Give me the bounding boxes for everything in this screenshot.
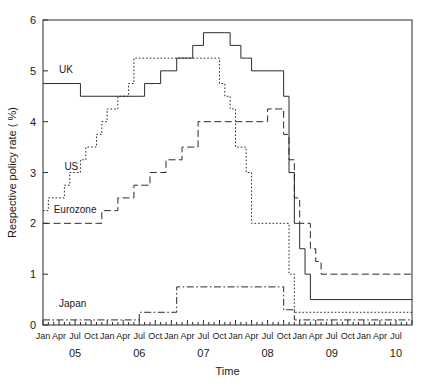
- x-tick-label-Oct: Oct: [84, 331, 99, 341]
- y-tick-label-3: 3: [30, 167, 36, 179]
- x-tick-label-Oct: Oct: [148, 331, 163, 341]
- x-tick-label-Jan: Jan: [228, 331, 243, 341]
- x-tick-label-Oct: Oct: [277, 331, 292, 341]
- series-label-eurozone: Eurozone: [54, 204, 97, 215]
- year-label-08: 08: [261, 347, 273, 359]
- y-tick-label-0: 0: [30, 319, 36, 331]
- x-tick-label-Jan: Jan: [292, 331, 307, 341]
- policy-rate-chart-figure: 0123456JanAprJulOctJanAprJulOctJanAprJul…: [0, 0, 430, 386]
- x-tick-label-Apr: Apr: [116, 331, 130, 341]
- x-tick-label-Jan: Jan: [164, 331, 179, 341]
- series-label-japan: Japan: [59, 298, 86, 309]
- year-label-09: 09: [326, 347, 338, 359]
- year-label-06: 06: [133, 347, 145, 359]
- plot-frame: [43, 20, 412, 325]
- year-label-05: 05: [69, 347, 81, 359]
- x-tick-label-Jan: Jan: [36, 331, 51, 341]
- x-tick-label-Jul: Jul: [69, 331, 81, 341]
- series-label-us: US: [64, 161, 78, 172]
- x-tick-label-Jul: Jul: [262, 331, 274, 341]
- year-label-07: 07: [197, 347, 209, 359]
- y-tick-label-6: 6: [30, 14, 36, 26]
- x-tick-label-Apr: Apr: [309, 331, 323, 341]
- x-tick-label-Apr: Apr: [245, 331, 259, 341]
- y-tick-label-1: 1: [30, 268, 36, 280]
- x-axis-title: Time: [215, 365, 239, 377]
- x-tick-label-Jul: Jul: [134, 331, 146, 341]
- series-label-uk: UK: [59, 64, 73, 75]
- x-tick-label-Apr: Apr: [373, 331, 387, 341]
- series-line-japan: [43, 287, 412, 320]
- y-tick-label-2: 2: [30, 217, 36, 229]
- x-tick-label-Jul: Jul: [326, 331, 338, 341]
- series-line-eurozone: [43, 109, 412, 274]
- x-tick-label-Apr: Apr: [180, 331, 194, 341]
- x-tick-label-Jan: Jan: [357, 331, 372, 341]
- y-axis-title: Respective policy rate ( %): [6, 107, 18, 238]
- series-line-uk: [43, 33, 412, 300]
- year-label-10: 10: [390, 347, 402, 359]
- x-tick-label-Oct: Oct: [212, 331, 227, 341]
- x-tick-label-Apr: Apr: [52, 331, 66, 341]
- x-tick-label-Oct: Oct: [341, 331, 356, 341]
- y-tick-label-5: 5: [30, 65, 36, 77]
- y-tick-label-4: 4: [30, 116, 36, 128]
- x-tick-label-Jul: Jul: [198, 331, 210, 341]
- x-tick-label-Jul: Jul: [390, 331, 402, 341]
- chart-canvas: 0123456JanAprJulOctJanAprJulOctJanAprJul…: [0, 0, 430, 386]
- x-tick-label-Jan: Jan: [100, 331, 115, 341]
